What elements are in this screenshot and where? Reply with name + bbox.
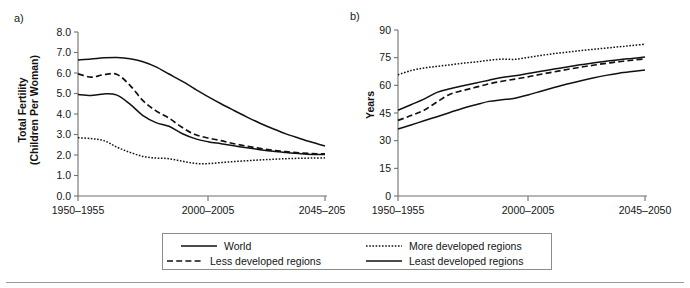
legend-label-world: World [224,239,251,253]
svg-text:1950–1955: 1950–1955 [52,204,105,216]
svg-text:2000–2005: 2000–2005 [182,204,235,216]
svg-text:2045–2050: 2045–2050 [619,204,672,216]
svg-text:75: 75 [379,51,391,63]
legend-item-least-developed-regions: Least developed regions [366,254,523,268]
svg-text:0.0: 0.0 [56,190,71,202]
svg-text:90: 90 [379,24,391,36]
legend-swatch-solid2-icon [366,256,402,266]
legend-label-more-developed-regions: More developed regions [409,239,522,253]
series-line-world [78,94,325,155]
series-line-less-developed-regions [78,74,325,154]
legend-item-more-developed-regions: More developed regions [366,239,522,253]
svg-text:45: 45 [379,107,391,119]
svg-text:2000–2005: 2000–2005 [502,204,555,216]
svg-text:60: 60 [379,79,391,91]
legend: World Less developed regions More develo… [162,233,552,270]
series-line-more-developed-regions [398,44,645,75]
svg-text:7.0: 7.0 [56,46,71,58]
svg-text:4.0: 4.0 [56,108,71,120]
series-line-less-developed-regions [398,59,645,121]
legend-item-less-developed-regions: Less developed regions [167,254,321,268]
series-line-least-developed-regions [398,70,645,129]
legend-label-least-developed-regions: Least developed regions [409,254,523,268]
figure-container: a) b) Total Fertility (Children Per Woma… [0,0,690,288]
series-line-more-developed-regions [78,138,325,164]
svg-text:1.0: 1.0 [56,169,71,181]
legend-item-world: World [181,239,251,253]
series-line-least-developed-regions [78,57,325,146]
svg-text:15: 15 [379,162,391,174]
footer-divider [6,282,684,283]
panel-a-plot: 0.01.02.03.04.05.06.07.08.01950–19552000… [0,0,345,230]
svg-text:5.0: 5.0 [56,87,71,99]
svg-text:8.0: 8.0 [56,26,71,38]
panel-b-plot: 01530456075901950–19552000–20052045–2050 [345,0,690,230]
svg-text:30: 30 [379,134,391,146]
svg-text:6.0: 6.0 [56,67,71,79]
legend-swatch-solid-icon [181,241,217,251]
svg-text:2045–2050: 2045–2050 [299,204,345,216]
legend-label-less-developed-regions: Less developed regions [210,254,321,268]
svg-text:0: 0 [385,190,391,202]
svg-text:2.0: 2.0 [56,149,71,161]
svg-text:3.0: 3.0 [56,128,71,140]
svg-text:1950–1955: 1950–1955 [372,204,425,216]
legend-swatch-dashed-icon [167,256,203,266]
legend-swatch-dotted-icon [366,241,402,251]
